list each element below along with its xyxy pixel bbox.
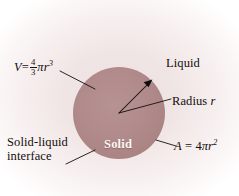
area-exponent: 2 bbox=[213, 137, 217, 147]
interface-label-line1: Solid-liquid bbox=[7, 135, 68, 149]
volume-exponent: 3 bbox=[49, 58, 53, 68]
volume-symbol: V bbox=[14, 60, 22, 74]
volume-formula-label: V=43πr3 bbox=[14, 58, 53, 77]
volume-equals: = bbox=[22, 60, 29, 74]
volume-fraction-numerator: 4 bbox=[30, 58, 36, 67]
interface-label-line2: interface bbox=[7, 149, 52, 163]
area-symbol: A bbox=[174, 139, 182, 153]
solid-liquid-interface-label: Solid-liquid interface bbox=[7, 136, 93, 163]
area-leader-line bbox=[156, 140, 176, 146]
liquid-label: Liquid bbox=[166, 57, 200, 71]
solid-region-label: Solid bbox=[104, 137, 132, 152]
volume-fraction: 43 bbox=[30, 58, 36, 77]
radius-label: Radius r bbox=[172, 95, 216, 109]
area-formula-label: A = 4πr2 bbox=[174, 140, 217, 154]
radius-variable: r bbox=[211, 94, 216, 108]
sphere-diagram-figure: V=43πr3 Liquid Radius r A = 4πr2 Solid-l… bbox=[0, 0, 239, 196]
volume-fraction-denominator: 3 bbox=[30, 67, 36, 77]
radius-label-text: Radius bbox=[172, 94, 207, 108]
